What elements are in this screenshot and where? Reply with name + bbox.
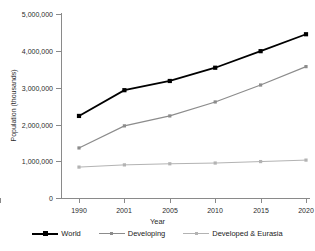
data-point-marker — [168, 114, 171, 117]
series-line-developing — [79, 67, 306, 148]
data-point-marker — [214, 100, 217, 103]
legend-label-world: World — [61, 229, 80, 238]
series-plot — [0, 0, 315, 251]
legend-label-developed-eurasia: Developed & Eurasia — [212, 229, 282, 238]
data-point-marker — [168, 79, 172, 83]
series-line-developed-eurasia — [79, 160, 306, 167]
data-point-marker — [123, 124, 126, 127]
data-point-marker — [259, 160, 262, 163]
population-line-chart: 5,000,000 4,000,000 3,000,000 2,000,000 … — [0, 0, 315, 251]
data-point-marker — [259, 49, 263, 53]
data-point-marker — [304, 65, 307, 68]
chart-legend: World Developing Developed & Eurasia — [0, 229, 315, 238]
legend-item-world[interactable]: World — [32, 229, 80, 238]
data-point-marker — [122, 88, 126, 92]
data-point-marker — [213, 66, 217, 70]
legend-swatch-developed-eurasia — [183, 230, 209, 238]
data-point-marker — [123, 163, 126, 166]
legend-swatch-developing — [99, 230, 125, 238]
data-point-marker — [214, 161, 217, 164]
data-point-marker — [77, 165, 80, 168]
data-point-marker — [304, 159, 307, 162]
legend-item-developing[interactable]: Developing — [99, 229, 166, 238]
series-line-world — [79, 34, 306, 116]
legend-label-developing: Developing — [128, 229, 166, 238]
data-point-marker — [77, 146, 80, 149]
legend-swatch-world — [32, 230, 58, 238]
data-point-marker — [259, 83, 262, 86]
data-point-marker — [304, 32, 308, 36]
data-point-marker — [77, 114, 81, 118]
data-point-marker — [168, 162, 171, 165]
legend-item-developed-eurasia[interactable]: Developed & Eurasia — [183, 229, 282, 238]
